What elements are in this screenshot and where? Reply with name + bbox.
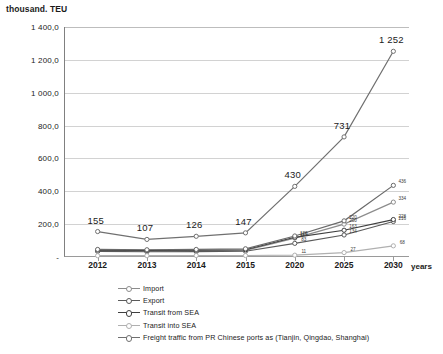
data-value-label: 147 [235, 215, 251, 226]
series-marker [293, 241, 297, 245]
legend-item[interactable]: Transit from SEA [118, 308, 369, 318]
data-value-label: 120 [300, 231, 308, 236]
series-marker [293, 253, 297, 257]
legend-line-marker-icon [118, 321, 140, 329]
series-marker [342, 135, 346, 139]
chart-legend: ImportExportTransit from SEATransit into… [118, 283, 369, 343]
data-value-label: 27 [351, 246, 356, 251]
series-marker [342, 219, 346, 223]
series-marker [96, 254, 100, 258]
data-value-label: 134 [349, 228, 357, 233]
x-axis-title: years [411, 262, 432, 271]
data-value-label: 220 [349, 214, 357, 219]
x-axis-tick-mark [393, 257, 394, 261]
y-axis-tick-label: 800,0 [38, 121, 59, 130]
x-axis-tick-label: 2020 [285, 260, 304, 270]
series-marker [243, 231, 247, 235]
y-axis-tick-label: 600,0 [38, 154, 59, 163]
x-axis-tick-label: 2025 [335, 260, 354, 270]
legend-item-label: Transit from SEA [143, 308, 199, 317]
series-marker [145, 248, 149, 252]
series-marker [96, 229, 100, 233]
data-value-label: 1 252 [379, 34, 404, 45]
legend-item[interactable]: Freight traffic from PR Chinese ports as… [118, 333, 369, 343]
legend-item-label: Export [143, 296, 164, 305]
y-axis-title: thousand. TEU [6, 4, 67, 14]
legend-item[interactable]: Transit into SEA [118, 320, 369, 330]
series-marker [391, 183, 395, 187]
data-value-label: 228 [399, 213, 407, 218]
y-axis-tick-label: 1 400,0 [31, 23, 59, 32]
series-marker [342, 233, 346, 237]
y-axis-tick-label: 400,0 [38, 187, 59, 196]
data-value-label: 155 [87, 214, 103, 225]
legend-item-label: Transit into SEA [143, 321, 196, 330]
series-marker [391, 200, 395, 204]
x-axis-tick-label: 2030 [384, 260, 403, 270]
series-line [98, 51, 394, 239]
plot-area: 1 400,01 200,01 000,0800,0600,0400,0200,… [64, 27, 409, 257]
y-axis-tick-label: 200,0 [38, 220, 59, 229]
series-marker [391, 217, 395, 221]
legend-line-marker-icon [118, 296, 140, 304]
legend-item[interactable]: Export [118, 295, 369, 305]
y-axis-tick-label: 1 200,0 [31, 55, 59, 64]
y-axis-tick-label: - [56, 253, 59, 262]
data-value-label: 126 [186, 219, 202, 230]
legend-item-label: Import [143, 284, 164, 293]
series-marker [145, 254, 149, 258]
series-marker [194, 234, 198, 238]
series-marker [293, 184, 297, 188]
series-marker [243, 247, 247, 251]
series-marker [145, 237, 149, 241]
x-axis-tick-label: 2013 [137, 260, 156, 270]
series-marker [194, 253, 198, 257]
legend-line-marker-icon [118, 334, 140, 342]
x-axis-tick-mark [344, 257, 345, 261]
legend-item-label: Freight traffic from PR Chinese ports as… [143, 333, 369, 342]
series-marker [342, 228, 346, 232]
series-marker [243, 253, 247, 257]
data-value-label: 68 [400, 239, 405, 244]
series-marker [293, 234, 297, 238]
x-axis-tick-label: 2014 [187, 260, 206, 270]
data-value-label: 430 [285, 169, 301, 180]
data-value-label: 163 [349, 224, 357, 229]
data-value-label: 107 [137, 222, 153, 233]
data-value-label: 334 [399, 196, 407, 201]
y-axis-tick-label: 1 000,0 [31, 88, 59, 97]
x-axis-tick-label: 2015 [236, 260, 255, 270]
data-value-label: 83 [301, 237, 306, 242]
series-marker [96, 247, 100, 251]
series-marker [391, 49, 395, 53]
data-value-label: 436 [399, 179, 407, 184]
data-value-label: 11 [301, 249, 306, 254]
legend-item[interactable]: Import [118, 283, 369, 293]
series-marker [342, 250, 346, 254]
data-value-label: 731 [334, 119, 350, 130]
series-marker [194, 247, 198, 251]
legend-line-marker-icon [118, 284, 140, 292]
legend-line-marker-icon [118, 309, 140, 317]
series-marker [391, 244, 395, 248]
x-axis-tick-label: 2012 [88, 260, 107, 270]
chart-root: thousand. TEU 1 400,01 200,01 000,0800,0… [0, 0, 443, 354]
